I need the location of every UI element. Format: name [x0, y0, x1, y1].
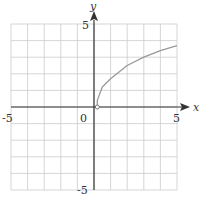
x-axis-label: x [193, 101, 200, 114]
function-curve [97, 46, 177, 107]
origin-label: 0 [80, 112, 87, 125]
x-max-label: 5 [173, 112, 180, 125]
y-max-label: 5 [82, 19, 89, 32]
open-circle-marker [95, 105, 99, 109]
y-axis-label: y [89, 0, 97, 13]
y-min-label: -5 [77, 184, 88, 197]
function-graph: x y 0 -5 5 5 -5 [0, 0, 200, 199]
x-min-label: -5 [2, 112, 13, 125]
x-axis [11, 103, 190, 111]
